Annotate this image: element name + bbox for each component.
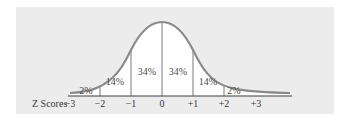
tick-label: +1 xyxy=(188,98,199,109)
percent-label: 34% xyxy=(138,66,156,77)
tick-label: +2 xyxy=(219,98,230,109)
tick-label: −1 xyxy=(126,98,137,109)
percent-label: 2% xyxy=(79,85,92,96)
tick-label: 0 xyxy=(160,98,165,109)
tick-label: −2 xyxy=(95,98,106,109)
tick-label: −3 xyxy=(65,98,76,109)
x-axis-label: Z Scores xyxy=(32,98,67,109)
tick-label: +3 xyxy=(251,98,262,109)
percent-label: 34% xyxy=(169,66,187,77)
percent-label: 14% xyxy=(199,76,217,87)
percent-label: 14% xyxy=(106,76,124,87)
normal-distribution-chart: 2% 14% 34% 34% 14% 2% Z Scores −3 −2 −1 … xyxy=(0,0,350,123)
percent-label: 2% xyxy=(227,85,240,96)
